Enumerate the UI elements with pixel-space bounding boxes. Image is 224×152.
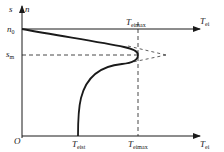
axis-label-s: s bbox=[9, 4, 13, 14]
top-axis-label: Tei bbox=[200, 16, 210, 27]
bottom-axis-label: Tei bbox=[200, 139, 210, 150]
temax-bottom-label: Teimax bbox=[128, 139, 148, 150]
axis-label-n: n bbox=[25, 4, 30, 14]
origin-label: O bbox=[14, 136, 21, 146]
torque-speed-diagram: s n n0 sm Teimax Tei O Teist Teimax Tei bbox=[0, 0, 224, 152]
sm-label: sm bbox=[6, 49, 15, 60]
n0-label: n0 bbox=[7, 24, 15, 35]
torque-characteristic-curve bbox=[22, 29, 138, 136]
teist-label: Teist bbox=[72, 139, 86, 150]
temax-top-label: Teimax bbox=[126, 17, 146, 28]
